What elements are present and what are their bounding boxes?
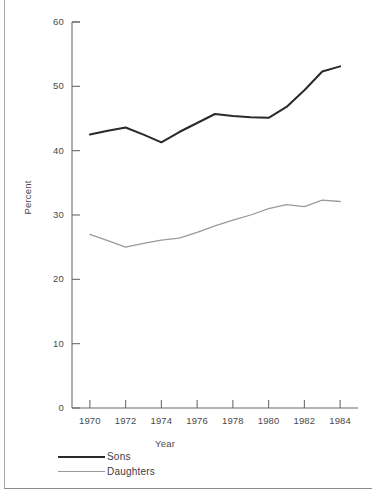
y-tick-label: 60 (30, 16, 64, 27)
y-tick-label: 30 (30, 209, 64, 220)
chart-legend: Sons Daughters (58, 449, 258, 479)
x-axis-ticks (90, 400, 340, 408)
legend-item-daughters: Daughters (58, 464, 258, 479)
x-tick-label: 1978 (213, 415, 253, 426)
y-axis-ticks (72, 22, 80, 408)
legend-swatch-sons-icon (58, 456, 105, 458)
x-tick-label: 1972 (106, 415, 146, 426)
x-axis-title: Year (155, 438, 175, 449)
x-tick-label: 1984 (320, 415, 360, 426)
y-tick-label: 50 (30, 80, 64, 91)
legend-label-daughters: Daughters (107, 466, 155, 477)
series-line-sons (90, 66, 340, 142)
x-tick-label: 1970 (70, 415, 110, 426)
y-tick-label: 10 (30, 338, 64, 349)
legend-item-sons: Sons (58, 449, 258, 464)
y-tick-label: 20 (30, 273, 64, 284)
y-tick-label: 0 (30, 402, 64, 413)
x-tick-label: 1976 (177, 415, 217, 426)
x-tick-label: 1974 (141, 415, 181, 426)
x-tick-label: 1980 (249, 415, 289, 426)
chart-page: 0102030405060 19701972197419761978198019… (0, 0, 377, 496)
x-tick-label: 1982 (284, 415, 324, 426)
y-tick-label: 40 (30, 145, 64, 156)
line-chart: 0102030405060 19701972197419761978198019… (0, 0, 377, 496)
legend-label-sons: Sons (107, 451, 131, 462)
series-line-daughters (90, 200, 340, 247)
legend-swatch-daughters-icon (58, 471, 105, 472)
y-axis-title: Percent (22, 168, 33, 228)
